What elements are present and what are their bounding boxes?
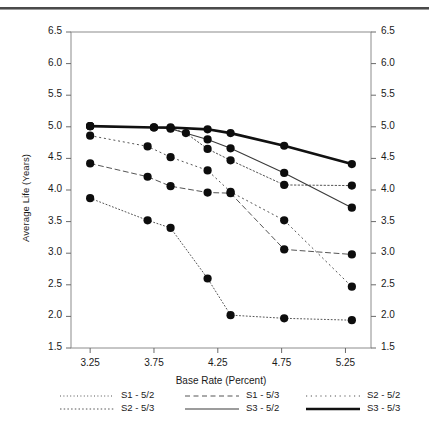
y-tick-label-left: 3.0: [42, 246, 62, 257]
data-point-marker: [166, 123, 174, 131]
y-tick-label-left: 4.5: [42, 151, 62, 162]
data-point-marker: [86, 194, 94, 202]
y-tick-label-right: 5.0: [381, 120, 395, 131]
y-tick-label-left: 2.5: [42, 278, 62, 289]
x-axis-title: Base Rate (Percent): [0, 375, 429, 386]
chart-figure: 1.51.52.02.02.52.53.03.03.53.54.04.04.54…: [0, 0, 429, 429]
series-line-s2-5-3: [90, 126, 352, 185]
data-point-marker: [348, 283, 356, 291]
y-tick-label-left: 3.5: [42, 215, 62, 226]
data-point-marker: [226, 129, 234, 137]
data-point-marker: [143, 173, 151, 181]
x-tick-label: 4.25: [200, 357, 236, 368]
data-point-marker: [86, 122, 94, 130]
y-tick-label-right: 5.5: [381, 88, 395, 99]
data-point-marker: [280, 181, 288, 189]
data-point-marker: [226, 311, 234, 319]
data-point-marker: [348, 316, 356, 324]
y-tick-label-right: 6.5: [381, 25, 395, 36]
y-tick-label-right: 2.0: [381, 309, 395, 320]
y-tick-label-left: 6.5: [42, 25, 62, 36]
data-point-marker: [143, 142, 151, 150]
data-point-marker: [226, 144, 234, 152]
x-tick-label: 4.75: [264, 357, 300, 368]
data-point-marker: [280, 169, 288, 177]
y-tick-label-right: 2.5: [381, 278, 395, 289]
y-axis-title: Average Life (Years): [20, 154, 31, 242]
y-tick-label-left: 4.0: [42, 183, 62, 194]
data-point-marker: [86, 132, 94, 140]
x-tick-label: 3.75: [136, 357, 172, 368]
data-point-marker: [203, 188, 211, 196]
y-tick-label-left: 5.0: [42, 120, 62, 131]
data-point-marker: [203, 145, 211, 153]
data-point-marker: [203, 125, 211, 133]
legend-label-s1-5-3: S1 - 5/3: [246, 389, 279, 400]
data-point-marker: [182, 129, 190, 137]
data-point-marker: [203, 166, 211, 174]
data-point-marker: [280, 216, 288, 224]
y-tick-label-right: 3.0: [381, 246, 395, 257]
y-tick-label-right: 4.0: [381, 183, 395, 194]
legend-label-s2-5-2: S2 - 5/2: [367, 389, 400, 400]
x-tick-label: 3.25: [72, 357, 108, 368]
y-tick-label-right: 4.5: [381, 151, 395, 162]
legend-label-s2-5-3: S2 - 5/3: [121, 402, 154, 413]
y-tick-label-right: 1.5: [381, 341, 395, 352]
data-point-marker: [280, 245, 288, 253]
y-tick-label-left: 5.5: [42, 88, 62, 99]
legend-label-s3-5-3: S3 - 5/3: [367, 402, 400, 413]
data-point-marker: [348, 204, 356, 212]
series-line-s3-5-2: [90, 126, 352, 208]
data-point-marker: [348, 181, 356, 189]
y-tick-label-left: 2.0: [42, 309, 62, 320]
data-point-marker: [348, 160, 356, 168]
data-point-marker: [166, 224, 174, 232]
y-tick-label-right: 6.0: [381, 57, 395, 68]
data-point-marker: [203, 274, 211, 282]
legend-label-s1-5-2: S1 - 5/2: [121, 389, 154, 400]
data-point-marker: [226, 188, 234, 196]
data-point-marker: [226, 156, 234, 164]
y-tick-label-right: 3.5: [381, 215, 395, 226]
y-tick-label-left: 1.5: [42, 341, 62, 352]
data-point-marker: [86, 159, 94, 167]
data-point-marker: [143, 216, 151, 224]
x-tick-label: 5.25: [327, 357, 363, 368]
data-point-marker: [150, 123, 158, 131]
data-point-marker: [166, 182, 174, 190]
data-point-marker: [348, 250, 356, 258]
data-point-marker: [166, 153, 174, 161]
data-point-marker: [280, 314, 288, 322]
series-line-s2-5-2: [90, 136, 352, 287]
series-line-s1-5-3: [90, 163, 352, 254]
data-point-marker: [203, 135, 211, 143]
series-line-s1-5-2: [90, 198, 352, 320]
data-point-marker: [280, 142, 288, 150]
legend-label-s3-5-2: S3 - 5/2: [246, 402, 279, 413]
y-tick-label-left: 6.0: [42, 57, 62, 68]
